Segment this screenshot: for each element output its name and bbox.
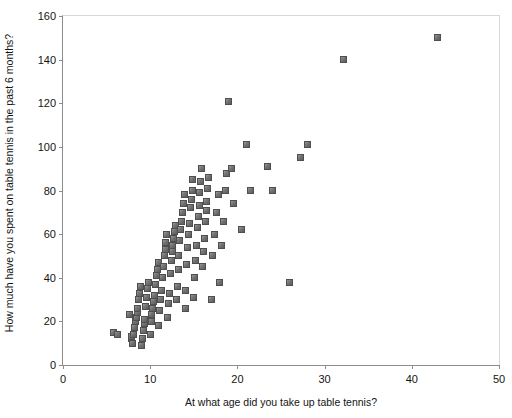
data-point <box>286 279 293 286</box>
y-axis-title: How much have you spent on table tennis … <box>0 0 18 366</box>
data-point <box>230 200 237 207</box>
data-point <box>434 34 441 41</box>
y-axis-tick-label: 80 <box>44 185 56 197</box>
x-axis-tick-mark <box>325 365 326 369</box>
data-point <box>168 257 175 264</box>
data-point <box>155 322 162 329</box>
x-axis-tick-label: 20 <box>231 373 243 385</box>
data-point <box>176 237 183 244</box>
data-point <box>196 202 203 209</box>
data-point <box>165 300 172 307</box>
data-point <box>167 270 174 277</box>
x-axis-tick-label: 0 <box>60 373 66 385</box>
data-point <box>203 198 210 205</box>
y-axis-tick-mark <box>59 234 63 235</box>
data-point <box>297 154 304 161</box>
data-point <box>199 263 206 270</box>
data-point <box>247 187 254 194</box>
y-axis-tick-label: 0 <box>50 359 56 371</box>
y-axis-tick-label: 40 <box>44 272 56 284</box>
data-point <box>211 231 218 238</box>
data-point <box>216 279 223 286</box>
data-point <box>188 196 195 203</box>
data-point <box>150 298 157 305</box>
data-point <box>215 191 222 198</box>
data-point <box>180 200 187 207</box>
data-point <box>304 141 311 148</box>
data-point <box>139 335 146 342</box>
data-point <box>163 231 170 238</box>
x-axis-tick-mark <box>499 365 500 369</box>
data-point <box>138 342 145 349</box>
data-point <box>243 141 250 148</box>
data-point <box>187 204 194 211</box>
data-points-layer <box>63 16 499 365</box>
data-point <box>218 242 225 249</box>
data-point <box>183 261 190 268</box>
data-point <box>202 218 209 225</box>
data-point <box>185 231 192 238</box>
x-axis-tick-mark <box>412 365 413 369</box>
data-point <box>195 213 202 220</box>
data-point <box>225 98 232 105</box>
data-point <box>134 305 141 312</box>
data-point <box>204 185 211 192</box>
data-point <box>203 207 210 214</box>
data-point <box>194 224 201 231</box>
data-point <box>181 191 188 198</box>
y-axis-tick-mark <box>59 278 63 279</box>
data-point <box>228 165 235 172</box>
data-point <box>189 187 196 194</box>
data-point <box>162 239 169 246</box>
data-point <box>131 324 138 331</box>
data-point <box>174 283 181 290</box>
data-point <box>158 287 165 294</box>
x-axis-title: At what age did you take up table tennis… <box>62 396 500 408</box>
data-point <box>140 327 147 334</box>
x-axis-tick-mark <box>237 365 238 369</box>
y-axis-title-text: How much have you spent on table tennis … <box>3 34 15 332</box>
data-point <box>137 283 144 290</box>
x-axis-title-text: At what age did you take up table tennis… <box>185 396 377 408</box>
data-point <box>164 314 171 321</box>
data-point <box>157 296 164 303</box>
y-axis-tick-mark <box>59 321 63 322</box>
data-point <box>182 287 189 294</box>
data-point <box>114 331 121 338</box>
plot-area: 02040608010012014016001020304050 <box>62 15 500 366</box>
x-axis-tick-label: 10 <box>144 373 156 385</box>
data-point <box>135 296 142 303</box>
data-point <box>166 290 173 297</box>
data-point <box>161 252 168 259</box>
data-point <box>142 303 149 310</box>
x-axis-tick-label: 50 <box>493 373 505 385</box>
x-axis-tick-label: 40 <box>406 373 418 385</box>
data-point <box>160 263 167 270</box>
data-point <box>193 242 200 249</box>
data-point <box>136 290 143 297</box>
y-axis-tick-mark <box>59 147 63 148</box>
data-point <box>178 218 185 225</box>
data-point <box>159 274 166 281</box>
data-point <box>197 178 204 185</box>
data-point <box>173 296 180 303</box>
data-point <box>189 176 196 183</box>
data-point <box>220 218 227 225</box>
data-point <box>147 331 154 338</box>
data-point <box>143 294 150 301</box>
data-point <box>144 285 151 292</box>
x-axis-tick-label: 30 <box>318 373 330 385</box>
data-point <box>182 305 189 312</box>
y-axis-tick-label: 140 <box>38 54 56 66</box>
x-axis-tick-mark <box>63 365 64 369</box>
data-point <box>169 248 176 255</box>
data-point <box>191 274 198 281</box>
data-point <box>179 209 186 216</box>
data-point <box>269 187 276 194</box>
data-point <box>205 174 212 181</box>
y-axis-tick-mark <box>59 103 63 104</box>
y-axis-tick-label: 160 <box>38 10 56 22</box>
data-point <box>201 235 208 242</box>
data-point <box>200 248 207 255</box>
data-point <box>238 226 245 233</box>
